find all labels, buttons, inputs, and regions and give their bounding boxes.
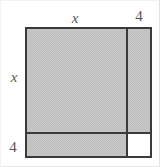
label-left-x: x xyxy=(3,70,25,85)
label-top-4: 4 xyxy=(127,9,151,24)
geometry-figure: x 4 x 4 xyxy=(0,0,160,167)
label-top-x: x xyxy=(63,11,87,26)
label-left-4: 4 xyxy=(2,140,24,155)
square-outline xyxy=(25,27,152,158)
